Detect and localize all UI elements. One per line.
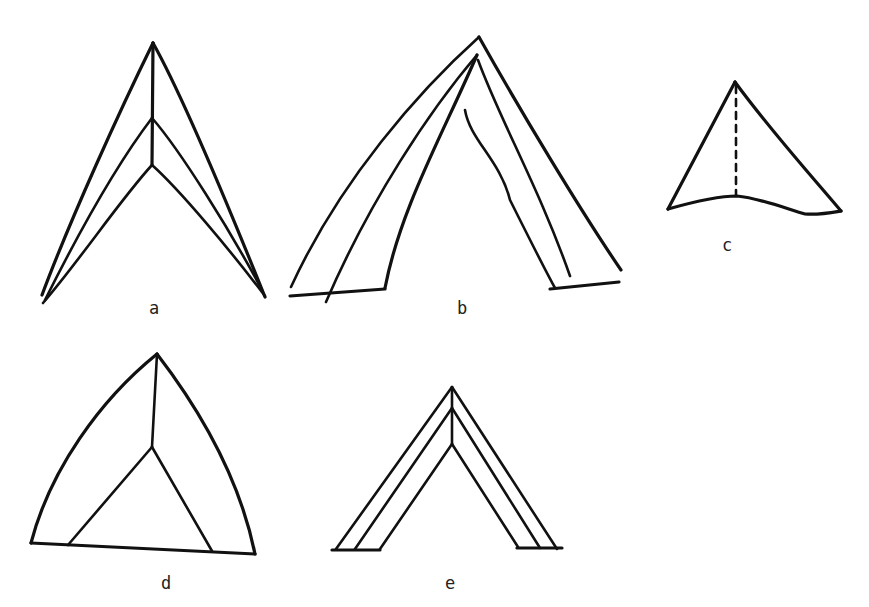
figure-e-label: e (445, 575, 455, 592)
figure-d (31, 354, 255, 554)
figure-b-label: b (457, 300, 467, 317)
figure-b (290, 37, 621, 302)
figure-c-label: c (722, 237, 732, 254)
figure-e (332, 387, 562, 550)
figure-a-label: a (149, 300, 159, 317)
figure-c (668, 82, 841, 214)
figure-canvas (0, 0, 869, 607)
figure-a (42, 43, 265, 303)
figure-d-label: d (161, 575, 171, 592)
